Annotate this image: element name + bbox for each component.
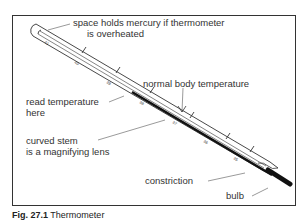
scale-mark: 35	[232, 156, 239, 163]
figure-caption: Fig. 27.1 Thermometer	[12, 210, 104, 220]
bulb-shape	[268, 170, 290, 184]
mercury-column	[132, 92, 272, 175]
scale-mark: 36	[202, 139, 209, 146]
scale-mark: 37	[171, 120, 178, 127]
scale-mark: 38	[138, 100, 145, 107]
label-space-holds-mercury: space holds mercury if thermometer	[73, 18, 225, 28]
scale-mark: 39	[105, 80, 112, 87]
caption-text: Thermometer	[50, 210, 104, 220]
label-constriction: constriction	[145, 176, 193, 186]
leader-lines	[48, 24, 268, 196]
label-here: here	[26, 108, 45, 118]
label-read-temperature: read temperature	[26, 97, 99, 107]
label-curved-stem: curved stem	[26, 136, 78, 146]
caption-label: Fig. 27.1	[12, 210, 48, 220]
thermometer-diagram: 41 40 39 38 37 36 35	[0, 0, 307, 221]
label-normal-body-temperature: normal body temperature	[143, 79, 249, 89]
label-bulb: bulb	[226, 191, 244, 201]
label-is-overheated: is overheated	[87, 29, 144, 39]
label-magnifying-lens: is a magnifying lens	[26, 147, 109, 157]
